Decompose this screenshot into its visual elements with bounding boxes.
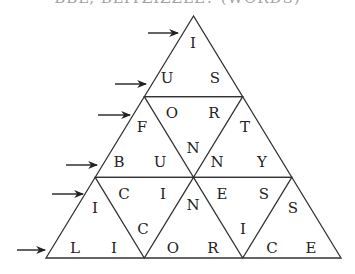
puzzle-letter: R <box>208 104 220 122</box>
puzzle-letter: I <box>240 220 246 238</box>
puzzle-letter: N <box>210 153 223 171</box>
puzzle-letter: U <box>161 69 174 87</box>
outer-triangle <box>46 16 341 258</box>
letter-cells: IUSORFTNBUNYCIESINSCILIORCE <box>70 34 316 257</box>
puzzle-letter: R <box>207 239 219 257</box>
puzzle-letter: E <box>217 185 228 203</box>
puzzle-letter: S <box>259 185 269 203</box>
puzzle-letter: L <box>70 239 80 257</box>
puzzle-letter: I <box>111 239 117 257</box>
puzzle-letter: N <box>186 196 199 214</box>
puzzle-letter: S <box>288 199 298 217</box>
puzzle-letter: C <box>137 220 148 238</box>
triangle-word-puzzle: IUSORFTNBUNYCIESINSCILIORCE <box>0 0 355 274</box>
puzzle-letter: E <box>306 239 317 257</box>
puzzle-letter: O <box>166 104 178 122</box>
puzzle-letter: U <box>154 153 167 171</box>
puzzle-letter: I <box>92 199 98 217</box>
puzzle-letter: C <box>118 185 129 203</box>
puzzle-letter: F <box>137 118 147 136</box>
puzzle-letter: O <box>167 239 179 257</box>
puzzle-letter: I <box>190 34 196 52</box>
puzzle-letter: B <box>113 153 124 171</box>
puzzle-letter: I <box>160 185 166 203</box>
puzzle-letter: C <box>266 239 277 257</box>
puzzle-letter: N <box>186 139 199 157</box>
puzzle-letter: Y <box>256 153 268 171</box>
puzzle-letter: T <box>240 118 250 136</box>
puzzle-letter: S <box>210 69 220 87</box>
grid-lines <box>46 16 341 258</box>
row-arrows <box>17 33 178 250</box>
